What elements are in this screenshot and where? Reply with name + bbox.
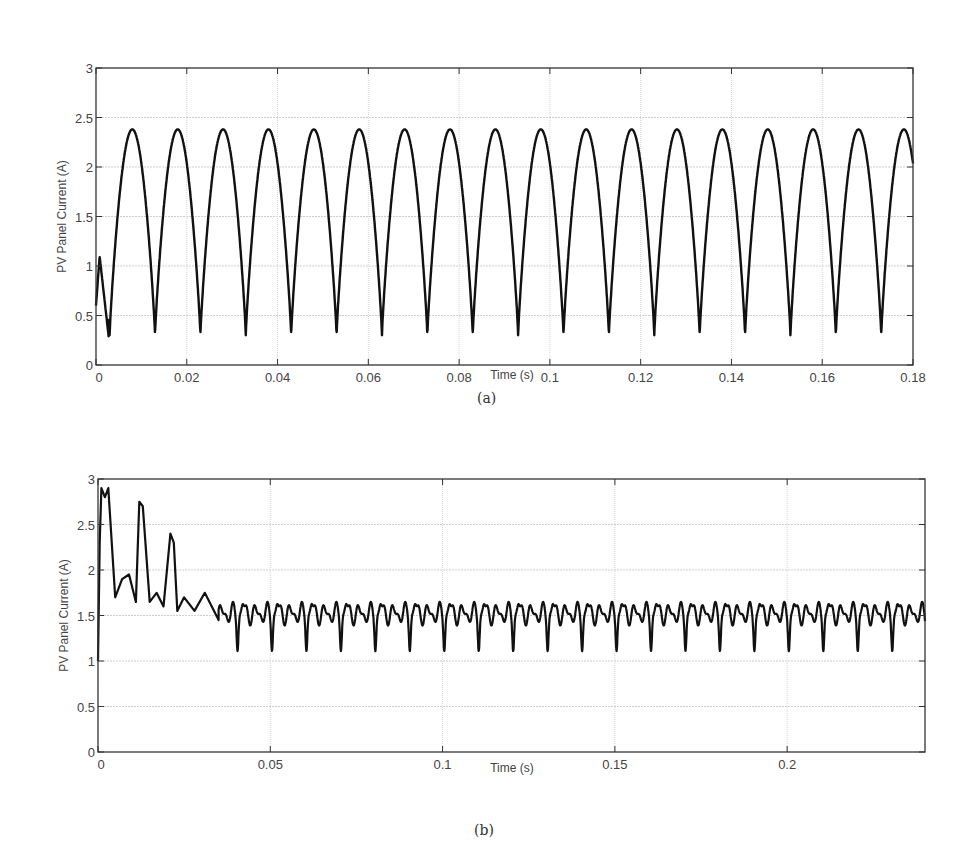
signal-line	[98, 488, 925, 661]
y-tick-label: 0	[88, 745, 95, 760]
signal-line	[96, 129, 913, 336]
y-tick-label: 0.5	[75, 309, 93, 324]
chart-a-plot: 00.511.522.5300.020.040.060.080.10.120.1…	[0, 0, 977, 420]
x-tick-label: 0.18	[900, 370, 925, 385]
x-tick-label: 0.15	[602, 757, 627, 772]
y-tick-label: 0	[86, 358, 93, 373]
axes: 00.511.522.5300.020.040.060.080.10.120.1…	[55, 61, 926, 385]
y-tick-label: 1	[86, 259, 93, 274]
x-tick-label: 0.14	[719, 370, 744, 385]
axes: 00.511.522.5300.050.10.150.2Time (s)PV P…	[57, 472, 925, 775]
x-tick-label: 0.16	[810, 370, 835, 385]
y-tick-label: 2	[88, 563, 95, 578]
chart-panel-b: 00.511.522.5300.050.10.150.2Time (s)PV P…	[0, 420, 977, 867]
x-axis-label: Time (s)	[490, 368, 534, 382]
panel-a-caption: (a)	[477, 390, 496, 406]
x-tick-label: 0.06	[356, 370, 381, 385]
y-tick-label: 2.5	[77, 518, 95, 533]
x-tick-label: 0.1	[541, 370, 559, 385]
x-tick-label: 0.05	[258, 757, 283, 772]
x-tick-label: 0.04	[265, 370, 290, 385]
y-tick-label: 2	[86, 160, 93, 175]
x-tick-label: 0	[97, 757, 104, 772]
y-axis-label: PV Panel Current (A)	[57, 559, 71, 672]
x-axis-label: Time (s)	[490, 761, 534, 775]
panel-b-caption: (b)	[474, 822, 494, 838]
x-tick-label: 0.1	[434, 757, 452, 772]
y-tick-label: 0.5	[77, 700, 95, 715]
x-tick-label: 0	[95, 370, 102, 385]
y-tick-label: 1.5	[75, 210, 93, 225]
y-tick-label: 2.5	[75, 111, 93, 126]
x-tick-label: 0.2	[778, 757, 796, 772]
y-axis-label: PV Panel Current (A)	[55, 160, 69, 273]
x-tick-label: 0.08	[446, 370, 471, 385]
y-tick-label: 1	[88, 654, 95, 669]
x-tick-label: 0.02	[174, 370, 199, 385]
y-tick-label: 3	[88, 472, 95, 487]
chart-panel-a: 00.511.522.5300.020.040.060.080.10.120.1…	[0, 0, 977, 420]
x-tick-label: 0.12	[628, 370, 653, 385]
y-tick-label: 3	[86, 61, 93, 76]
chart-b-plot: 00.511.522.5300.050.10.150.2Time (s)PV P…	[0, 420, 977, 867]
y-tick-label: 1.5	[77, 609, 95, 624]
